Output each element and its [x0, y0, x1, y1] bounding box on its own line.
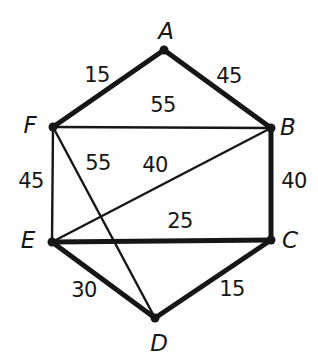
edge-weight-F-D: 55: [85, 151, 111, 175]
vertex-dot-D: [151, 314, 160, 323]
edge-A-B: [164, 50, 271, 128]
edge-E-C: [52, 240, 271, 242]
edge-A-F: [53, 50, 164, 127]
vertex-dot-E: [48, 238, 57, 247]
edge-weight-A-F: 15: [84, 63, 110, 87]
vertex-label-C: C: [282, 227, 298, 253]
weighted-graph-canvas: 15455545554040253015ABCDEF: [0, 0, 318, 363]
edge-weight-D-C: 15: [219, 277, 245, 301]
vertex-dot-A: [160, 46, 169, 55]
vertex-label-F: F: [23, 112, 37, 138]
edge-weight-B-C: 40: [281, 169, 307, 193]
edge-weight-A-B: 45: [216, 64, 242, 88]
edge-weight-E-C: 25: [167, 209, 193, 233]
graph-diagram: 15455545554040253015ABCDEF: [0, 0, 318, 363]
edge-E-D: [52, 242, 155, 318]
vertex-label-D: D: [150, 330, 168, 356]
edge-weight-F-E: 45: [18, 169, 44, 193]
vertex-label-E: E: [21, 227, 36, 253]
edge-weight-E-D: 30: [71, 278, 97, 302]
vertex-dot-B: [267, 124, 276, 133]
edge-weight-F-B: 55: [150, 93, 176, 117]
vertex-dot-C: [267, 236, 276, 245]
vertex-dot-F: [49, 123, 58, 132]
vertex-label-A: A: [156, 18, 174, 44]
edge-F-E: [52, 127, 53, 242]
edge-weight-E-B: 40: [142, 153, 168, 177]
edge-D-C: [155, 240, 271, 318]
vertex-label-B: B: [280, 114, 296, 140]
edge-F-B: [53, 127, 271, 128]
